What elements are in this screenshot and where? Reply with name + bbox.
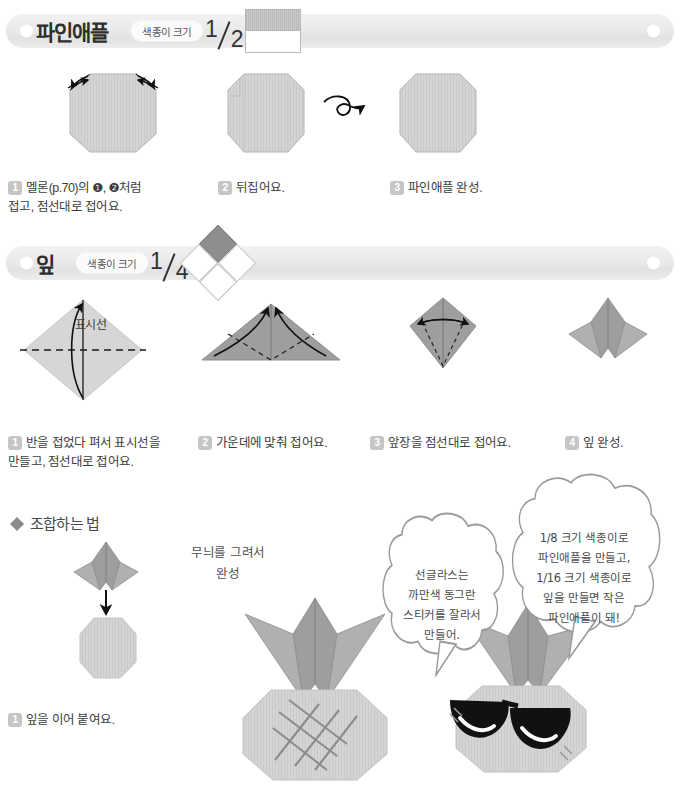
- figure-pineapple-step-2: [218, 72, 314, 156]
- half-square-shaded-part: [246, 10, 300, 31]
- fraction-numerator: 1: [205, 16, 218, 42]
- header-endcap-right-icon: [647, 25, 660, 38]
- step-badge: 4: [565, 436, 579, 450]
- caption-text: 파인애플 완성.: [408, 181, 482, 195]
- leaf-marking-line-label: 표시선: [75, 316, 106, 335]
- fraction-slash-icon: [218, 23, 231, 50]
- fraction-slash-icon: [163, 255, 176, 282]
- step-badge: 1: [8, 181, 22, 195]
- speech-bubble-text: 선글라스는 까만색 동그란 스티커를 잘라서 만들어.: [392, 565, 492, 645]
- figure-pineapple-step-3: [390, 72, 486, 156]
- half-square-icon: [245, 9, 301, 53]
- flip-over-arrow-icon: [318, 92, 372, 128]
- section-title-leaf: 잎: [36, 248, 54, 278]
- step-badge: 3: [370, 436, 384, 450]
- caption-text: 멜론(p.70)의 ❶, ❷처럼 접고, 점선대로 접어요.: [8, 181, 142, 214]
- caption-text: 잎 완성.: [583, 436, 623, 450]
- figure-leaf-step-3: [400, 296, 486, 372]
- paper-size-label-leaf: 색종이 크기: [76, 253, 148, 274]
- step-badge: 1: [8, 713, 22, 727]
- paper-size-label-pineapple: 색종이 크기: [131, 21, 203, 42]
- caption-text: 반을 접었다 펴서 표시선을 만들고, 점선대로 접어요.: [8, 436, 160, 469]
- figure-assembly-step-1: [46, 538, 166, 688]
- speech-bubble-text: 1/8 크기 색종이로 파인애플을 만들고, 1/16 크기 색종이로 잎을 만…: [519, 528, 649, 628]
- speech-bubble-size-tip: 1/8 크기 색종이로 파인애플을 만들고, 1/16 크기 색종이로 잎을 만…: [505, 455, 663, 681]
- caption-leaf-step-4: 4잎 완성.: [565, 415, 675, 453]
- step-badge: 3: [390, 181, 404, 195]
- caption-text: 앞장을 점선대로 접어요.: [388, 436, 511, 450]
- caption-pineapple-step-1: 1멜론(p.70)의 ❶, ❷처럼 접고, 점선대로 접어요.: [8, 160, 198, 217]
- figure-leaf-step-4: [565, 296, 651, 372]
- step-badge: 1: [8, 436, 22, 450]
- section-title-pineapple: 파인애플: [36, 16, 108, 46]
- caption-text: 가운데에 맞춰 접어요.: [216, 436, 327, 450]
- quarter-diamond-icon: [180, 225, 256, 301]
- paper-size-fraction-pineapple: 12: [205, 15, 244, 48]
- speech-bubble-sunglasses-tip: 선글라스는 까만색 동그란 스티커를 잘라서 만들어.: [378, 492, 506, 698]
- figure-pineapple-step-1: [48, 72, 178, 156]
- step-badge: 2: [218, 181, 232, 195]
- header-endcap-left-icon: [20, 25, 33, 38]
- header-endcap-right-icon: [647, 257, 660, 270]
- caption-assembly-step-1: 1잎을 이어 붙여요.: [8, 692, 114, 730]
- caption-leaf-step-3: 3앞장을 점선대로 접어요.: [370, 415, 570, 453]
- caption-leaf-step-2: 2가운데에 맞춰 접어요.: [198, 415, 388, 453]
- figure-leaf-step-1: [18, 296, 148, 404]
- assembly-heading: 조합하는 법: [12, 512, 99, 533]
- caption-pineapple-step-3: 3파인애플 완성.: [390, 160, 570, 198]
- assembly-heading-text: 조합하는 법: [30, 515, 99, 532]
- figure-leaf-step-2: [198, 300, 344, 366]
- fraction-denominator: 2: [231, 26, 244, 52]
- caption-text: 잎을 이어 붙여요.: [26, 713, 114, 727]
- header-endcap-left-icon: [20, 257, 33, 270]
- fraction-numerator: 1: [150, 248, 163, 274]
- step-badge: 2: [198, 436, 212, 450]
- diamond-bullet-icon: [10, 517, 24, 531]
- assembly-pattern-note: 무늬를 그려서 완성: [168, 542, 288, 584]
- caption-leaf-step-1: 1반을 접었다 펴서 표시선을 만들고, 점선대로 접어요.: [8, 415, 198, 472]
- caption-pineapple-step-2: 2뒤집어요.: [218, 160, 378, 198]
- caption-text: 뒤집어요.: [236, 181, 284, 195]
